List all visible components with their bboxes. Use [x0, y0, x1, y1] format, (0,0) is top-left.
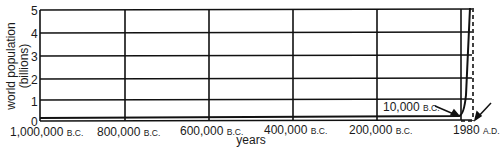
y-axis-title-line1: world population: [4, 22, 18, 110]
x-tick-label: 800,000 B.C.: [97, 125, 160, 139]
x-tick-label: 1980 A.D.: [453, 123, 500, 137]
x-tick-label: 200,000 B.C.: [349, 123, 412, 137]
y-axis-title: world population (billions): [4, 22, 31, 110]
x-tick-label: 600,000 B.C.: [180, 124, 243, 138]
x-tick-label: 1,000,000 B.C.: [10, 125, 83, 139]
y-tick-label: 2: [31, 73, 38, 87]
y-tick-label: 1: [31, 95, 38, 109]
y-axis-title-line2: (billions): [17, 44, 31, 89]
x-tick-label: 400,000 B.C.: [264, 123, 327, 137]
y-tick-labels: 5 4 3 2 1 0: [31, 4, 38, 129]
y-tick-label: 4: [31, 27, 38, 41]
y-tick-label: 3: [31, 50, 38, 64]
population-chart: 5 4 3 2 1 0 world population (billions) …: [0, 0, 501, 150]
y-tick-label: 5: [31, 4, 38, 18]
annotation-10000-bc: 10,000 B.C.: [383, 100, 440, 114]
x-axis-title: years: [236, 133, 265, 147]
